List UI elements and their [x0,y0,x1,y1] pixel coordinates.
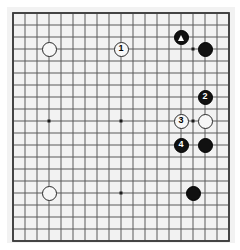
stone-move-number: 2 [202,92,207,101]
stone-black-right-side[interactable] [198,138,213,153]
stone-black-marked-triangle[interactable] [174,30,189,45]
stone-black-upper-right-star[interactable] [198,42,213,57]
triangle-marker-icon [178,35,184,41]
go-board-diagram: 1234 [0,0,240,250]
stone-move-3-white[interactable]: 3 [174,114,189,129]
stone-move-number: 4 [178,140,183,149]
star-point [48,120,51,123]
star-point [120,120,123,123]
star-point [192,120,195,123]
stone-move-number: 1 [118,44,123,53]
stone-move-number: 3 [178,116,183,125]
stone-move-2-black[interactable]: 2 [198,90,213,105]
stone-white-upper-left-star[interactable] [42,42,57,57]
stone-black-lower-right-star[interactable] [186,186,201,201]
stone-move-4-black[interactable]: 4 [174,138,189,153]
star-point [120,192,123,195]
stone-move-1-white[interactable]: 1 [114,42,129,57]
star-point [192,48,195,51]
stone-white-lower-left-star[interactable] [42,186,57,201]
stone-white-right-side[interactable] [198,114,213,129]
